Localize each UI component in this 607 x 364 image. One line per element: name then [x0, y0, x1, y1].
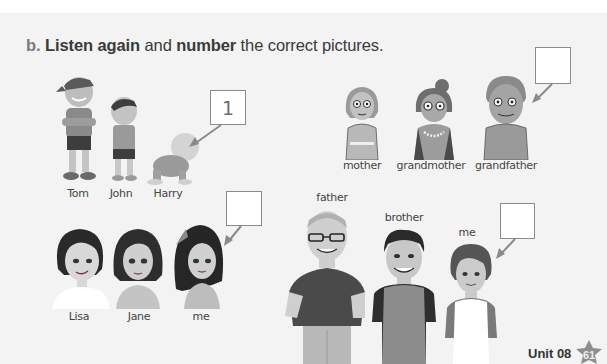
label-john: John: [110, 187, 133, 200]
pointer-arrow-icon: [222, 225, 244, 247]
label-girl-me: me: [193, 310, 210, 323]
label-mother: mother: [343, 159, 381, 172]
label-lisa: Lisa: [69, 310, 89, 323]
label-tom: Tom: [67, 187, 88, 200]
answer-box-girls[interactable]: [226, 191, 262, 226]
pointer-arrow-icon: [185, 123, 225, 149]
label-harry: Harry: [154, 187, 183, 200]
brother-illustration: [370, 226, 436, 364]
label-boy-me: me: [459, 226, 476, 239]
grandfather-illustration: [480, 72, 532, 160]
label-father: father: [316, 191, 347, 204]
john-illustration: [104, 95, 144, 185]
tom-illustration: [52, 72, 102, 184]
label-jane: Jane: [128, 310, 151, 323]
answer-box-brothers[interactable]: 1: [210, 90, 246, 125]
label-grandmother: grandmother: [397, 159, 466, 172]
label-grandfather: grandfather: [475, 159, 537, 172]
unit-label: Unit 08: [528, 346, 571, 361]
mother-illustration: [340, 82, 385, 160]
label-brother: brother: [385, 211, 423, 224]
answer-box-boys[interactable]: [500, 203, 535, 239]
exercise-letter: b.: [26, 36, 40, 54]
lisa-illustration: [52, 225, 110, 309]
grandmother-illustration: [410, 78, 458, 160]
father-illustration: [285, 206, 365, 364]
instruction-heading: b. Listen again and number the correct p…: [26, 36, 383, 55]
girl-me-illustration: [172, 219, 228, 309]
pointer-arrow-icon: [530, 83, 556, 105]
boy-me-illustration: [443, 240, 499, 364]
answer-box-grandparents[interactable]: [535, 47, 571, 84]
page-number: 61: [575, 349, 603, 361]
pointer-arrow-icon: [494, 238, 518, 260]
jane-illustration: [112, 225, 164, 309]
top-margin: [0, 0, 607, 13]
